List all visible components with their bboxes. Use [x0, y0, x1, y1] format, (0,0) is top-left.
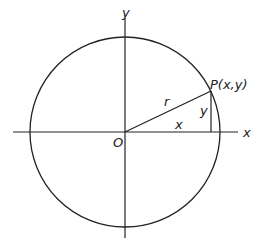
x-axis-label: x — [242, 125, 251, 140]
vertical-leg-label: y — [199, 103, 208, 118]
y-axis-label: y — [121, 5, 130, 20]
point-label: P(x,y) — [210, 77, 248, 92]
origin-label: O — [113, 135, 123, 150]
horizontal-leg-label: x — [174, 117, 183, 132]
unit-circle-diagram: y x O P(x,y) r x y — [0, 0, 264, 251]
radius-label: r — [164, 94, 171, 109]
